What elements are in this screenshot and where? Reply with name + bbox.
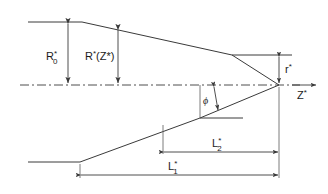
figure-canvas: R*0 R*(Z*) r* Z* ϕ L*2 L*1: [0, 0, 328, 194]
half-angle-arc-arrow: [214, 87, 218, 110]
nozzle-geometry-figure: R*0 R*(Z*) r* Z* ϕ L*2 L*1: [0, 0, 328, 194]
local-radius-arg: (Z*): [96, 50, 114, 62]
axial-coordinate-sup: *: [304, 88, 307, 97]
inlet-radius-label: R*0: [46, 49, 58, 66]
lower-wall-contour: [28, 85, 279, 162]
cone-length-sub: 2: [217, 144, 222, 153]
exit-radius-label: r*: [285, 62, 292, 75]
total-length-label: L*1: [168, 159, 178, 176]
total-length-sub: 1: [173, 167, 178, 176]
half-angle-label: ϕ: [203, 95, 208, 106]
local-radius-label: R*(Z*): [85, 49, 114, 62]
upper-wall-contour: [28, 22, 279, 85]
cone-length-label: L*2: [212, 136, 222, 153]
exit-radius-sup: *: [289, 62, 292, 71]
axial-coordinate-label: Z*: [297, 88, 307, 101]
local-radius-base: R: [85, 50, 93, 62]
inlet-radius-sub: 0: [53, 57, 58, 66]
